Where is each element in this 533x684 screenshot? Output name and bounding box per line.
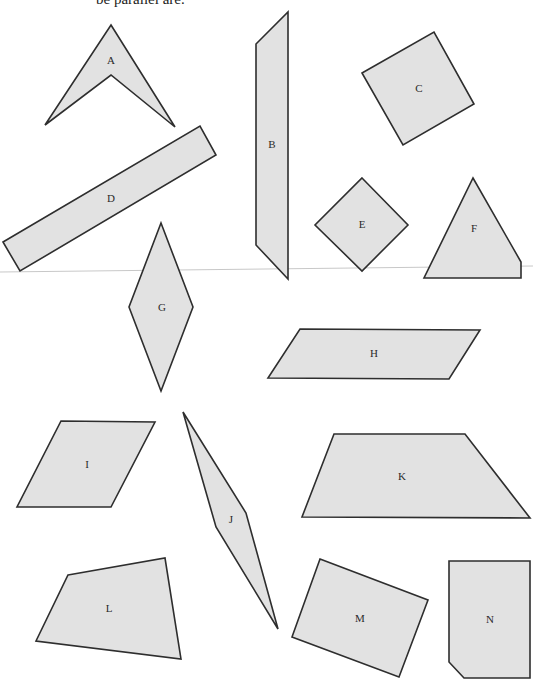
shape-l: L <box>36 558 181 659</box>
shape-c-label: C <box>415 82 422 94</box>
shape-i: I <box>17 421 155 507</box>
shape-d: D <box>3 126 216 271</box>
shape-m: M <box>292 559 428 677</box>
shape-h-label: H <box>370 347 378 359</box>
shape-k: K <box>302 434 530 518</box>
shape-g: G <box>129 223 193 391</box>
shape-a: A <box>45 25 175 127</box>
shape-j: J <box>183 412 278 629</box>
shape-i-label: I <box>85 458 89 470</box>
shape-j-label: J <box>229 513 234 525</box>
shape-n-label: N <box>486 613 494 625</box>
shape-k-label: K <box>398 470 406 482</box>
shape-e: E <box>315 178 408 271</box>
shape-f-label: F <box>471 222 477 234</box>
shape-f: F <box>424 178 521 278</box>
shape-n: N <box>449 561 530 678</box>
shape-g-label: G <box>158 301 166 313</box>
shape-l-label: L <box>106 602 113 614</box>
shape-e-label: E <box>359 218 366 230</box>
shape-c: C <box>362 32 474 145</box>
shape-d-label: D <box>107 192 115 204</box>
shape-b: B <box>256 12 288 279</box>
shape-m-label: M <box>355 612 365 624</box>
shape-h: H <box>268 329 480 379</box>
shape-b-label: B <box>268 138 275 150</box>
shapes-diagram: A B C D E F G H I J K L <box>0 0 533 684</box>
shape-a-label: A <box>107 54 115 66</box>
